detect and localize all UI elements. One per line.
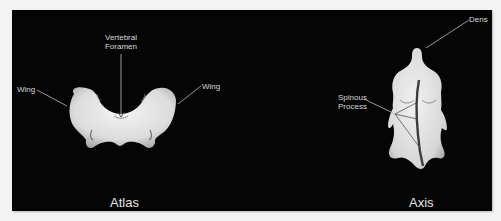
vertebral-foramen-line2: Foramen bbox=[98, 42, 144, 51]
axis-title: Axis bbox=[409, 196, 434, 210]
wing-right-label: Wing bbox=[202, 82, 220, 91]
spinous-process-line1: Spinous bbox=[338, 93, 367, 102]
dens-label: Dens bbox=[469, 15, 488, 24]
vertebral-foramen-label: Vertebral Foramen bbox=[98, 33, 144, 51]
vertebral-foramen-line1: Vertebral bbox=[98, 33, 144, 42]
spinous-process-line2: Process bbox=[338, 102, 367, 111]
wing-left-label: Wing bbox=[17, 85, 35, 94]
atlas-bone bbox=[70, 87, 176, 148]
vertebrae-illustration bbox=[0, 0, 501, 221]
spinous-process-label: Spinous Process bbox=[338, 93, 367, 111]
wing-right-pointer bbox=[178, 86, 201, 104]
spinous-pointer-main bbox=[364, 99, 395, 114]
atlas-title: Atlas bbox=[110, 196, 139, 210]
dens-pointer bbox=[426, 20, 469, 48]
wing-left-pointer bbox=[37, 90, 67, 106]
axis-bone bbox=[388, 48, 447, 169]
